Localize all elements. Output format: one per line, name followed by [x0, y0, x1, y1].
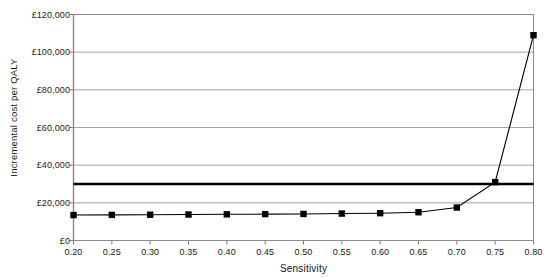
- x-tick-label: 0.30: [130, 247, 170, 257]
- x-tick-label: 0.35: [169, 247, 209, 257]
- data-point-marker: [339, 210, 345, 216]
- data-point-marker: [300, 211, 306, 217]
- x-tick-label: 0.55: [322, 247, 362, 257]
- data-point-marker: [224, 211, 230, 217]
- data-point-marker: [109, 212, 115, 218]
- x-tick-label: 0.60: [360, 247, 400, 257]
- data-point-marker: [377, 210, 383, 216]
- y-tick-label: £20,000: [12, 198, 70, 208]
- data-point-marker: [147, 211, 153, 217]
- data-point-marker: [70, 212, 76, 218]
- x-axis-title: Sensitivity: [73, 263, 534, 274]
- data-point-marker: [530, 32, 536, 38]
- series-line-0: [74, 35, 534, 215]
- y-tick-label: £120,000: [12, 10, 70, 20]
- data-series-layer: [70, 32, 536, 218]
- x-tick-label: 0.50: [284, 247, 324, 257]
- x-tick-label: 0.40: [207, 247, 247, 257]
- x-tick-label: 0.65: [399, 247, 439, 257]
- x-tick-label: 0.25: [92, 247, 132, 257]
- x-tick-label: 0.75: [475, 247, 515, 257]
- data-point-marker: [454, 204, 460, 210]
- y-tick-label: £0: [12, 236, 70, 246]
- chart-container: £0£20,000£40,000£60,000£80,000£100,000£1…: [0, 0, 560, 278]
- y-tick-label: £60,000: [12, 123, 70, 133]
- axis-ticks: [70, 15, 534, 245]
- plot-area: [0, 0, 560, 278]
- x-tick-label: 0.20: [54, 247, 94, 257]
- y-tick-label: £100,000: [12, 47, 70, 57]
- data-point-marker: [185, 211, 191, 217]
- gridlines: [74, 15, 534, 203]
- data-point-marker: [262, 211, 268, 217]
- y-tick-label: £80,000: [12, 85, 70, 95]
- y-tick-label: £40,000: [12, 160, 70, 170]
- y-axis-title: Incremental cost per QALY: [8, 18, 19, 218]
- x-tick-label: 0.45: [245, 247, 285, 257]
- x-tick-label: 0.80: [514, 247, 554, 257]
- data-point-marker: [415, 209, 421, 215]
- x-tick-label: 0.70: [437, 247, 477, 257]
